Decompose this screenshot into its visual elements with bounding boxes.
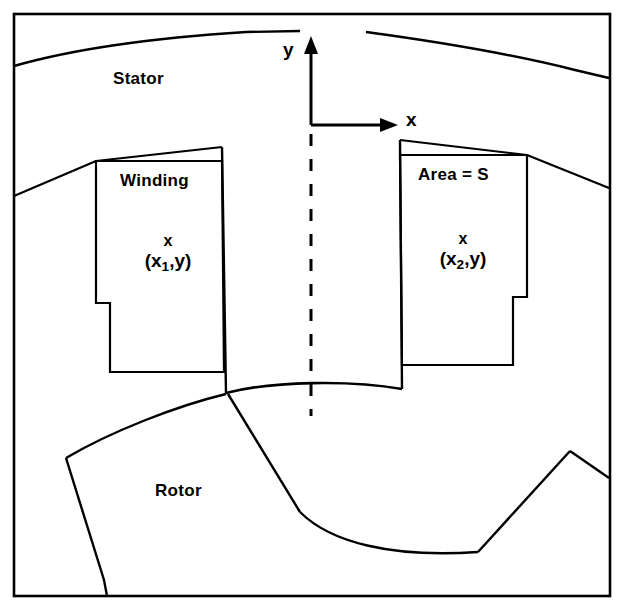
point-coord-right: (x2,y): [410, 249, 516, 272]
label-axis-x: x: [406, 110, 417, 129]
point-coord-left: (x1,y): [115, 251, 221, 274]
point-label-right: x (x2,y): [410, 231, 516, 272]
point-coord-right-subscript: 2: [457, 257, 465, 272]
stator-tooth-top-left: [96, 147, 222, 161]
rotor-surface-arc-left: [66, 394, 226, 458]
point-coord-left-prefix: (x: [145, 250, 162, 271]
label-area: Area = S: [418, 166, 489, 183]
point-label-left: x (x1,y): [115, 233, 221, 274]
rotor-tooth-right-flank: [228, 394, 300, 512]
label-rotor: Rotor: [155, 482, 202, 499]
label-winding: Winding: [120, 172, 189, 189]
rotor-next-tooth-flank: [478, 451, 570, 552]
label-stator: Stator: [113, 70, 164, 87]
rotor-next-tooth-edge: [570, 451, 609, 478]
diagram-vector-layer: [0, 0, 623, 606]
point-coord-right-prefix: (x: [440, 248, 457, 269]
stator-tooth-face-center: [226, 383, 402, 393]
stator-outer-curve-left: [14, 31, 300, 66]
point-marker-right-icon: x: [410, 231, 516, 247]
stator-inner-line-right: [527, 155, 609, 188]
point-marker-left-icon: x: [115, 233, 221, 249]
slot-right-tooth-side: [400, 140, 402, 389]
point-coord-left-suffix: ,y): [169, 250, 191, 271]
point-coord-left-subscript: 1: [162, 259, 170, 274]
point-coord-right-suffix: ,y): [464, 248, 486, 269]
stator-inner-line-left: [14, 161, 96, 196]
label-axis-y: y: [283, 40, 294, 59]
y-axis-arrowhead-icon: [304, 36, 318, 54]
stator-tooth-top-right: [400, 140, 527, 155]
rotor-left-flank: [66, 458, 107, 596]
stator-outer-curve-right: [366, 32, 609, 78]
rotor-slot-bottom-curve: [300, 512, 478, 553]
x-axis-arrowhead-icon: [380, 118, 398, 132]
diagram-canvas: Stator Rotor Winding Area = S y x x (x1,…: [0, 0, 623, 606]
